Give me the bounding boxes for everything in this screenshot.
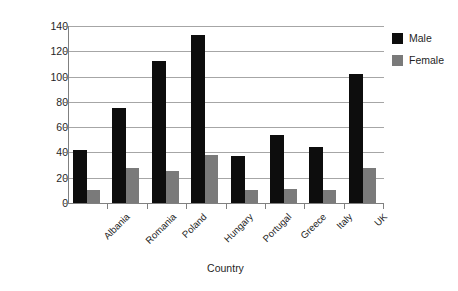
x-category-label: Hungary [221,211,254,244]
bar-group [187,26,226,203]
bar-group [345,26,384,203]
bar-group [227,26,266,203]
bar-female [363,168,376,203]
x-tick-mark [344,204,345,209]
legend-swatch-male [392,33,403,44]
x-category-label: Romania [143,211,178,246]
legend-label: Female [409,54,444,66]
bar-female [87,190,100,203]
bar-group [69,26,108,203]
bar-group [148,26,187,203]
bar-female [245,190,258,203]
legend-label: Male [409,32,432,44]
bar-female [126,168,139,203]
bar-male [73,150,87,203]
chart-legend: MaleFemale [392,27,456,71]
bar-group [305,26,344,203]
bar-male [309,147,323,203]
x-tick-mark [147,204,148,209]
x-category-label: Albania [102,211,132,241]
bar-female [166,171,179,203]
bar-male [191,35,205,203]
x-axis-title: Country [68,262,383,274]
bar-male [349,74,363,203]
x-category-label: Poland [180,211,209,240]
bar-female [323,190,336,203]
x-category-label: UK [372,211,389,228]
legend-swatch-female [392,55,403,66]
x-category-label: Greece [298,211,328,241]
bar-female [205,155,218,203]
bar-male [152,61,166,203]
x-tick-mark [304,204,305,209]
x-tick-mark [226,204,227,209]
bar-male [112,108,126,203]
y-axis-ticks: 020406080100120140 [30,0,68,291]
legend-item: Female [392,49,456,71]
bar-series-group [69,26,383,203]
chart-container: CHD mortality rate per 100 000 age stand… [0,0,458,291]
x-tick-mark [383,204,384,209]
bar-group [266,26,305,203]
x-tick-mark [265,204,266,209]
legend-item: Male [392,27,456,49]
bar-male [231,156,245,203]
bar-female [284,189,297,203]
x-category-label: Portugal [260,211,293,244]
bar-male [270,135,284,203]
bar-group [108,26,147,203]
x-tick-mark [107,204,108,209]
x-tick-mark [186,204,187,209]
x-category-label: Italy [334,211,354,231]
